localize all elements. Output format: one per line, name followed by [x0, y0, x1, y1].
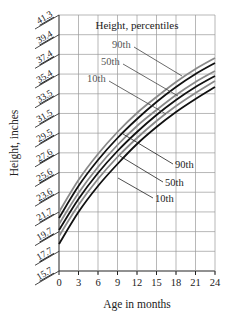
label-gray-50th: 50th [101, 56, 120, 67]
x-tick-label: 24 [210, 277, 221, 288]
x-axis-ticks: 03691215182124 [56, 277, 221, 288]
x-tick-label: 12 [132, 277, 143, 288]
x-tick-label: 6 [95, 277, 100, 288]
x-tick-label: 0 [56, 277, 61, 288]
x-tick-label: 18 [171, 277, 182, 288]
x-tick-label: 15 [151, 277, 162, 288]
label-gray-90th: 90th [112, 39, 131, 50]
height-percentile-chart: 15.717.719.721.723.625.627.629.531.533.5… [0, 0, 228, 325]
arrow-gray-90th [134, 47, 182, 76]
y-axis-title: Height, inches [8, 109, 21, 176]
x-tick-label: 9 [115, 277, 120, 288]
arrow-black-90th [123, 134, 173, 164]
label-gray-10th: 10th [87, 73, 106, 84]
chart-title: Height, percentiles [95, 19, 178, 31]
x-tick-label: 3 [76, 277, 81, 288]
x-tick-label: 21 [190, 277, 201, 288]
x-axis-title: Age in months [103, 298, 171, 311]
label-black-10th: 10th [155, 193, 174, 204]
label-black-90th: 90th [175, 159, 194, 170]
y-axis-ticks: 15.717.719.721.723.625.627.629.531.533.5… [35, 9, 59, 285]
annotations: Height, percentiles 90th 50th 10th 90th … [8, 19, 194, 311]
arrow-black-10th [118, 178, 153, 198]
label-black-50th: 50th [165, 177, 184, 188]
